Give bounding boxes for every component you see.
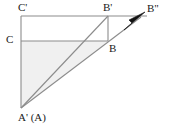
geometry-figure: C' B' B" C B A' (A) <box>0 0 170 129</box>
vertex-label-c-prime: C' <box>18 2 27 13</box>
arrowhead-icon <box>124 12 145 30</box>
vertex-label-b: B <box>109 43 116 54</box>
vertex-label-b-prime: B' <box>103 2 112 13</box>
figure-canvas <box>0 0 170 129</box>
vertex-label-c: C <box>6 34 13 45</box>
vertex-label-b-double-prime: B" <box>147 3 159 14</box>
vertex-label-a-prime-a: A' (A) <box>18 112 46 123</box>
